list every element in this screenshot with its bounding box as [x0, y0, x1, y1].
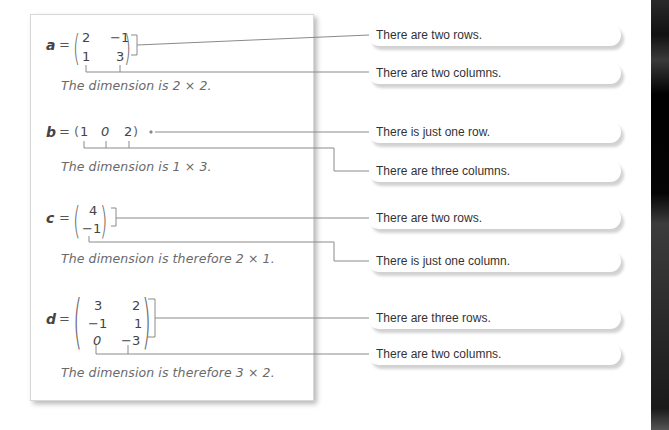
right-paren: ): [133, 124, 138, 139]
equals-sign: =: [59, 210, 70, 225]
cell: −3: [121, 333, 140, 348]
right-paren: ): [142, 288, 151, 356]
photo-edge: [651, 0, 669, 430]
matrix-d-name: d: [46, 311, 56, 327]
matrix-a-name: a: [46, 37, 55, 53]
right-paren: ): [100, 198, 107, 242]
dimension-text: The dimension is 1 × 3.: [61, 159, 212, 174]
cell: 0: [101, 124, 109, 139]
callout-bubble: There are three rows.: [369, 307, 621, 329]
cell: 4: [89, 203, 97, 218]
equals-sign: =: [59, 311, 70, 326]
matrix-b-name: b: [46, 124, 56, 140]
left-paren: (: [73, 27, 80, 68]
callout-bubble: There are three columns.: [369, 160, 621, 182]
cell: 3: [94, 298, 102, 313]
dimension-text: The dimension is therefore 2 × 1.: [61, 251, 275, 266]
matrix-c-name: c: [46, 210, 54, 226]
right-paren: ): [124, 27, 131, 68]
cell: 1: [80, 124, 88, 139]
cell: 2: [132, 298, 140, 313]
callout-bubble: There is just one row.: [369, 121, 621, 143]
cell: −1: [88, 316, 107, 331]
callout-bubble: There are two rows.: [369, 207, 621, 229]
cell: −1: [82, 221, 101, 236]
callout-bubble: There are two columns.: [369, 343, 621, 365]
cell: 0: [93, 333, 101, 348]
left-paren: (: [73, 288, 82, 356]
dimension-text: The dimension is 2 × 2.: [61, 78, 212, 93]
left-paren: (: [73, 198, 80, 242]
callout-bubble: There are two rows.: [369, 24, 621, 46]
callout-bubble: There are two columns.: [369, 62, 621, 84]
cell: 2: [82, 30, 90, 45]
dimension-text: The dimension is therefore 3 × 2.: [61, 365, 275, 380]
cell: 2: [124, 124, 132, 139]
left-paren: (: [74, 124, 79, 139]
equals-sign: =: [59, 124, 70, 139]
cell: 1: [82, 49, 90, 64]
equals-sign: =: [59, 37, 70, 52]
callout-bubble: There is just one column.: [369, 250, 621, 272]
